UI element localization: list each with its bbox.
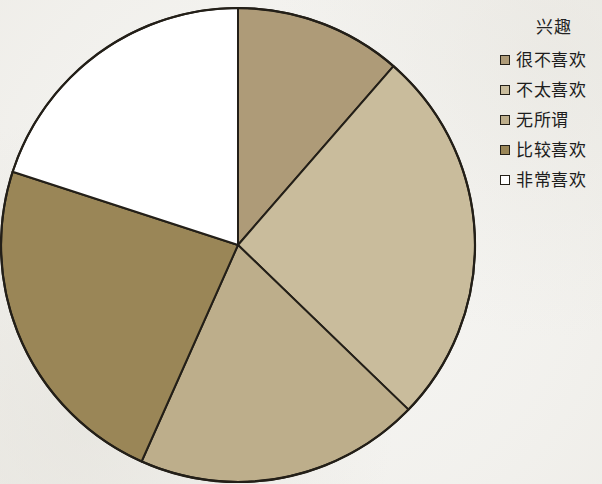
- legend-item-label: 不太喜欢: [516, 81, 586, 100]
- legend-swatch-wu-suo-wei: [500, 115, 510, 125]
- legend-item-label: 非常喜欢: [516, 171, 586, 190]
- legend-swatch-hen-bu-xihuan: [500, 55, 510, 65]
- legend-item-label: 比较喜欢: [516, 141, 586, 160]
- legend-swatch-bu-tai-xihuan: [500, 85, 510, 95]
- legend-swatch-feichang-xihuan: [500, 175, 510, 185]
- legend-item-list: 很不喜欢不太喜欢无所谓比较喜欢非常喜欢: [500, 45, 602, 195]
- legend-item[interactable]: 非常喜欢: [500, 165, 602, 195]
- legend-item-label: 很不喜欢: [516, 51, 586, 70]
- legend-item[interactable]: 很不喜欢: [500, 45, 602, 75]
- pie-chart-svg: [0, 0, 490, 484]
- pie-slice-group: [1, 8, 475, 482]
- legend-item[interactable]: 不太喜欢: [500, 75, 602, 105]
- legend-swatch-bijiao-xihuan: [500, 145, 510, 155]
- legend-item[interactable]: 无所谓: [500, 105, 602, 135]
- legend-item[interactable]: 比较喜欢: [500, 135, 602, 165]
- legend: 兴趣 很不喜欢不太喜欢无所谓比较喜欢非常喜欢: [500, 18, 602, 195]
- legend-title: 兴趣: [506, 18, 602, 38]
- pie-chart-area: [0, 0, 490, 484]
- legend-item-label: 无所谓: [516, 111, 569, 130]
